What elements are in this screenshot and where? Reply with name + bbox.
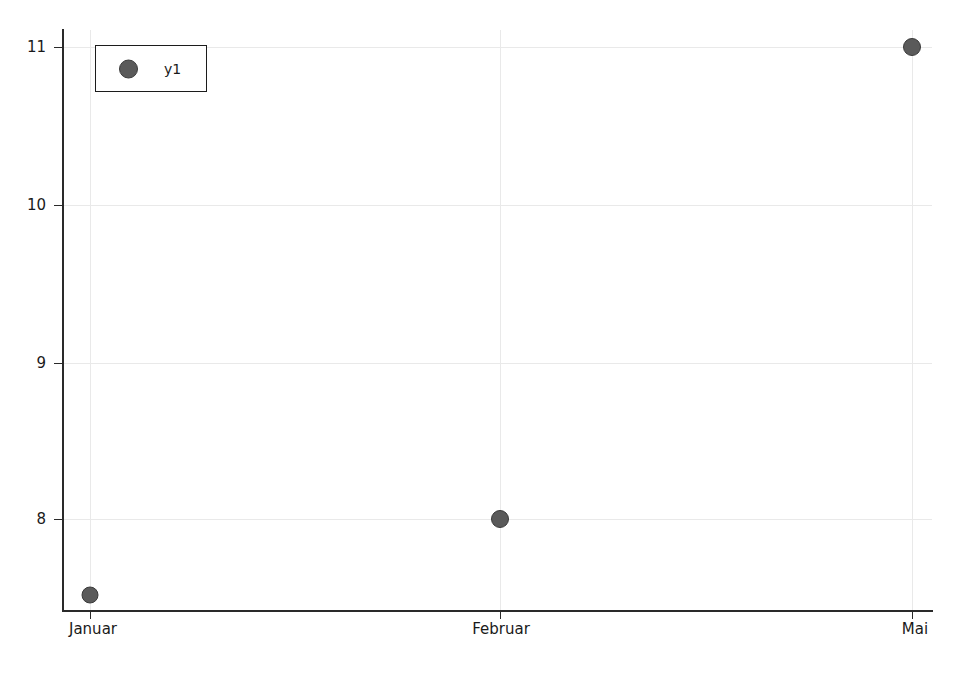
x-tick-mark-mai <box>912 611 913 619</box>
y-tick-mark-11 <box>54 47 63 48</box>
y-tick-label-8: 8 <box>0 512 46 527</box>
x-tick-label-mai: Mai <box>902 622 928 637</box>
data-point-januar[interactable] <box>82 587 99 604</box>
x-tick-mark-februar <box>500 611 501 619</box>
x-axis-spine <box>62 610 933 612</box>
y-tick-mark-10 <box>54 205 63 206</box>
gridline-y-9 <box>62 363 932 364</box>
gridline-y-10 <box>62 205 932 206</box>
plot-area <box>62 30 932 611</box>
y-tick-label-10: 10 <box>0 198 46 213</box>
y-tick-mark-9 <box>54 363 63 364</box>
gridline-x-januar <box>90 30 91 611</box>
y-axis-spine <box>62 29 64 612</box>
y-tick-label-11: 11 <box>0 40 46 55</box>
scatter-chart-figure: 11 10 9 8 Januar Februar Mai y1 <box>0 0 966 676</box>
gridline-x-mai <box>912 30 913 611</box>
chart-legend[interactable]: y1 <box>95 45 207 92</box>
x-tick-label-februar: Februar <box>472 622 530 637</box>
legend-circle-marker-icon <box>119 59 138 78</box>
x-tick-mark-januar <box>90 611 91 619</box>
data-point-mai[interactable] <box>903 38 921 56</box>
legend-entry-y1[interactable]: y1 <box>96 46 206 91</box>
y-tick-mark-8 <box>54 519 63 520</box>
data-point-februar[interactable] <box>491 510 509 528</box>
y-tick-label-9: 9 <box>0 356 46 371</box>
x-tick-label-januar: Januar <box>69 622 117 637</box>
legend-label-y1: y1 <box>164 62 181 76</box>
